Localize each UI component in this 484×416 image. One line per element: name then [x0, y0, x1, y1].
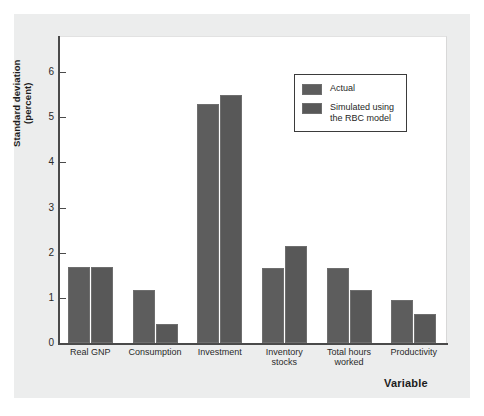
- legend-swatch-simulated: [302, 103, 322, 114]
- legend-item-actual: Actual: [302, 83, 355, 95]
- chart-legend: Actual Simulated using the RBC model: [294, 74, 407, 132]
- bar-simulated: [350, 290, 372, 343]
- bar-actual: [391, 300, 413, 343]
- x-axis-category-label: Consumption: [123, 347, 188, 357]
- figure-bar-chart: Standard deviation (percent) 0123456 Rea…: [0, 0, 484, 416]
- x-axis-category-label: Real GNP: [58, 347, 123, 357]
- x-axis-title: Variable: [384, 377, 428, 389]
- x-axis-category-label: Inventory stocks: [252, 347, 317, 368]
- legend-label-actual: Actual: [330, 83, 355, 94]
- legend-swatch-actual: [302, 84, 322, 95]
- x-axis-category-label: Investment: [187, 347, 252, 357]
- bar-actual: [133, 290, 155, 343]
- bar-simulated: [414, 314, 436, 343]
- x-axis-category-label: Total hours worked: [317, 347, 382, 368]
- bar-actual: [197, 104, 219, 343]
- legend-item-simulated: Simulated using the RBC model: [302, 102, 394, 124]
- bar-simulated: [156, 324, 178, 343]
- bar-simulated: [285, 246, 307, 343]
- legend-label-simulated: Simulated using the RBC model: [330, 102, 394, 124]
- bar-actual: [262, 268, 284, 343]
- bar-actual: [327, 268, 349, 343]
- bar-actual: [68, 267, 90, 343]
- bar-simulated: [91, 267, 113, 343]
- x-axis-category-label: Productivity: [381, 347, 446, 357]
- bar-simulated: [220, 95, 242, 343]
